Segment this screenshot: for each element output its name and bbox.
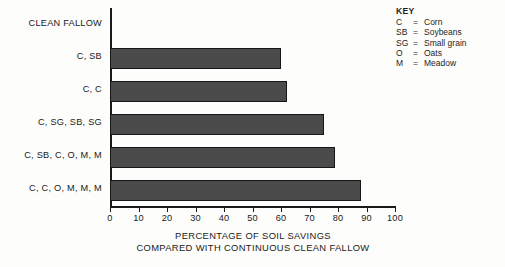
key-entry-abbr: O (396, 48, 413, 58)
x-tick-label: 100 (387, 213, 403, 223)
x-tick (224, 207, 225, 212)
key-entry: C=Corn (396, 17, 467, 27)
key-entry: SG=Small grain (396, 38, 467, 48)
bar (110, 114, 324, 135)
bar-row: C, SB, C, O, M, M (110, 141, 395, 174)
key-entry-abbr: SG (396, 38, 413, 48)
x-tick-label: 10 (133, 213, 144, 223)
x-tick-label: 90 (361, 213, 372, 223)
category-label: CLEAN FALLOW (29, 18, 102, 28)
x-tick-label: 60 (276, 213, 287, 223)
x-tick-label: 50 (247, 213, 258, 223)
x-tick (367, 207, 368, 212)
bar-row: C, SB (110, 42, 395, 75)
category-label: C, SB, C, O, M, M (24, 150, 102, 160)
key-entry: M=Meadow (396, 58, 467, 68)
chart-page: KEY C=CornSB=SoybeansSG=Small grainO=Oat… (0, 0, 505, 267)
bar (110, 147, 335, 168)
key-entry: O=Oats (396, 48, 467, 58)
bar-row: C, C (110, 75, 395, 108)
x-tick (338, 207, 339, 212)
key-entry-abbr: SB (396, 27, 413, 37)
x-tick-label: 80 (333, 213, 344, 223)
key-entry-meaning: Meadow (424, 58, 456, 68)
key-entry-equals: = (413, 58, 424, 68)
x-tick (310, 207, 311, 212)
x-tick-label: 0 (107, 213, 112, 223)
key-entry-equals: = (413, 17, 424, 27)
x-tick (281, 207, 282, 212)
key-entry-meaning: Oats (424, 48, 442, 58)
key-title: KEY (396, 6, 467, 16)
category-label: C, SG, SB, SG (38, 117, 102, 127)
bar (110, 180, 361, 201)
x-tick-label: 30 (190, 213, 201, 223)
axis-title: PERCENTAGE OF SOIL SAVINGS COMPARED WITH… (110, 230, 396, 253)
x-tick-label: 70 (304, 213, 315, 223)
axis-title-line-2: COMPARED WITH CONTINUOUS CLEAN FALLOW (110, 242, 396, 254)
key-entry-meaning: Corn (424, 17, 442, 27)
key-entry-abbr: M (396, 58, 413, 68)
key-entry-meaning: Small grain (424, 38, 467, 48)
bar (110, 48, 281, 69)
category-label: C, C (83, 84, 102, 94)
key-entry-equals: = (413, 38, 424, 48)
x-tick (139, 207, 140, 212)
key-entry-abbr: C (396, 17, 413, 27)
bar-row: C, SG, SB, SG (110, 108, 395, 141)
bar-row: C, C, O, M, M, M (110, 174, 395, 207)
x-tick (167, 207, 168, 212)
x-tick (253, 207, 254, 212)
x-tick (395, 207, 396, 212)
x-tick (196, 207, 197, 212)
bar-row: CLEAN FALLOW (110, 9, 395, 42)
bar (110, 81, 287, 102)
key-entry-equals: = (413, 27, 424, 37)
x-tick-label: 20 (162, 213, 173, 223)
key-entry-meaning: Soybeans (424, 27, 462, 37)
x-tick (110, 207, 111, 212)
key-entry-equals: = (413, 48, 424, 58)
key-legend: KEY C=CornSB=SoybeansSG=Small grainO=Oat… (396, 6, 467, 68)
key-entry-list: C=CornSB=SoybeansSG=Small grainO=OatsM=M… (396, 17, 467, 68)
category-label: C, SB (77, 51, 102, 61)
key-entry: SB=Soybeans (396, 27, 467, 37)
x-tick-label: 40 (219, 213, 230, 223)
category-label: C, C, O, M, M, M (29, 183, 102, 193)
plot-area: CLEAN FALLOWC, SBC, CC, SG, SB, SGC, SB,… (110, 8, 395, 206)
axis-title-line-1: PERCENTAGE OF SOIL SAVINGS (110, 230, 396, 242)
